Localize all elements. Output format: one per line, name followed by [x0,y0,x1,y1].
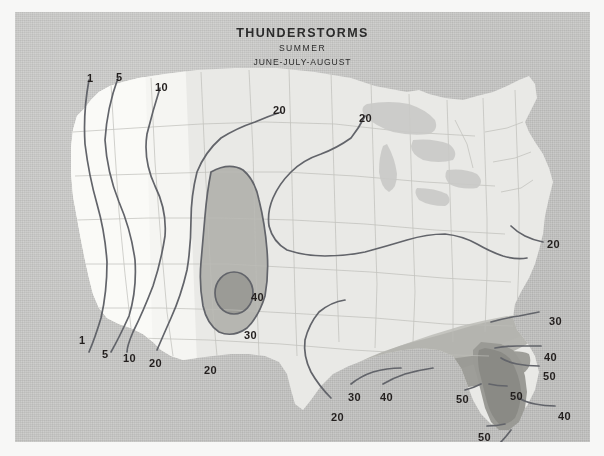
contour-line-40-gulf [383,368,433,384]
usa-contour-map [15,12,590,442]
contour-line-30-gulf [351,368,401,384]
contour-line-40-florida-south [499,430,511,442]
map-paper: THUNDERSTORMS SUMMER JUNE-JULY-AUGUST 15… [15,12,590,442]
map-figure: THUNDERSTORMS SUMMER JUNE-JULY-AUGUST 15… [0,0,604,456]
